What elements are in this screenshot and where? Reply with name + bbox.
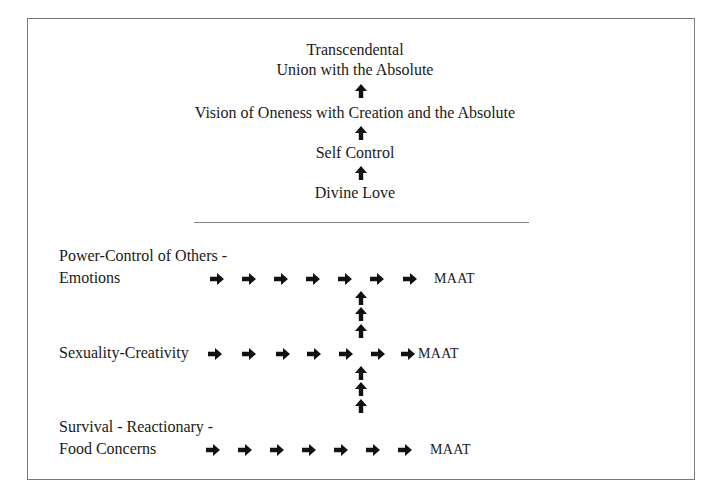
right-arrow-icon (334, 443, 348, 457)
right-arrow-icon (401, 347, 415, 361)
right-arrow-icon (242, 347, 256, 361)
right-arrow-icon (276, 347, 290, 361)
level-self-control: Self Control (0, 144, 710, 162)
up-arrow-icon (354, 84, 368, 98)
up-arrow-icon (354, 307, 368, 321)
level-sexuality-label: Sexuality-Creativity (59, 343, 189, 363)
up-arrow-icon (354, 324, 368, 338)
up-arrow-icon (354, 382, 368, 396)
level-union-with-absolute: Union with the Absolute (0, 61, 710, 79)
level-vision-of-oneness: Vision of Oneness with Creation and the … (0, 104, 710, 122)
level-power-label-line2: Emotions (59, 268, 120, 288)
maat-target-level-2: MAAT (418, 346, 459, 362)
up-arrow-icon (354, 291, 368, 305)
right-arrow-icon (403, 272, 417, 286)
level-power-label-line1: Power-Control of Others - (59, 246, 227, 266)
up-arrow-icon (354, 366, 368, 380)
level-transcendental: Transcendental (0, 41, 710, 59)
right-arrow-icon (371, 347, 385, 361)
right-arrow-icon (238, 443, 252, 457)
right-arrow-icon (398, 443, 412, 457)
level-survival-label-line1: Survival - Reactionary - (59, 417, 213, 437)
level-survival-label-line2: Food Concerns (59, 439, 156, 459)
right-arrow-icon (339, 347, 353, 361)
right-arrow-icon (242, 272, 256, 286)
right-arrow-icon (307, 347, 321, 361)
level-divine-love: Divine Love (0, 184, 710, 202)
right-arrow-icon (270, 443, 284, 457)
right-arrow-icon (208, 347, 222, 361)
maat-target-level-3: MAAT (430, 442, 471, 458)
right-arrow-icon (366, 443, 380, 457)
right-arrow-icon (370, 272, 384, 286)
right-arrow-icon (338, 272, 352, 286)
right-arrow-icon (274, 272, 288, 286)
right-arrow-icon (302, 443, 316, 457)
section-divider (194, 222, 529, 223)
up-arrow-icon (354, 166, 368, 180)
right-arrow-icon (206, 443, 220, 457)
right-arrow-icon (306, 272, 320, 286)
right-arrow-icon (210, 272, 224, 286)
maat-target-level-1: MAAT (434, 271, 475, 287)
up-arrow-icon (354, 399, 368, 413)
up-arrow-icon (354, 126, 368, 140)
